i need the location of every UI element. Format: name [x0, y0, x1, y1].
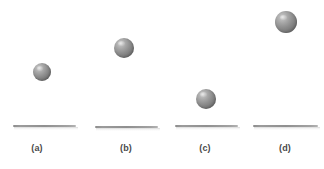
ball-c [196, 89, 216, 109]
surface-line-a [13, 125, 76, 127]
surface-line-d [253, 125, 318, 127]
surface-line-c [175, 125, 238, 127]
panel-label-d: (d) [265, 142, 305, 154]
ball-a [33, 63, 51, 81]
panel-label-a: (a) [17, 142, 57, 154]
surface-line-b [95, 126, 158, 128]
ball-height-comparison-figure: (a) (b) (c) (d) [0, 0, 324, 169]
ball-b [114, 38, 134, 58]
panel-label-b: (b) [106, 142, 146, 154]
ball-d [275, 11, 297, 33]
panel-label-c: (c) [185, 142, 225, 154]
